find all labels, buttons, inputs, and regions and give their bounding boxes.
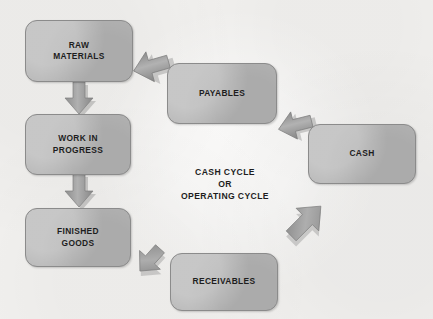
- node-raw-materials-label: RAW MATERIALS: [53, 40, 104, 63]
- node-payables-label: PAYABLES: [199, 88, 245, 99]
- node-work-in-progress[interactable]: WORK IN PROGRESS: [25, 114, 131, 175]
- node-work-in-progress-label: WORK IN PROGRESS: [53, 133, 103, 156]
- node-cash-label: CASH: [349, 148, 374, 159]
- arrow-raw-materials-to-work-in-progress: [62, 80, 104, 118]
- node-receivables[interactable]: RECEIVABLES: [170, 253, 278, 311]
- cycle-caption: CASH CYCLE OR OPERATING CYCLE: [162, 166, 288, 203]
- node-raw-materials[interactable]: RAW MATERIALS: [25, 20, 133, 82]
- arrow-work-in-progress-to-finished-goods: [62, 172, 104, 212]
- node-finished-goods[interactable]: FINISHED GOODS: [25, 208, 131, 267]
- node-payables[interactable]: PAYABLES: [167, 63, 277, 124]
- cash-cycle-diagram: RAW MATERIALS WORK IN PROGRESS FINISHED …: [0, 0, 433, 319]
- node-receivables-label: RECEIVABLES: [193, 276, 256, 287]
- arrow-receivables-to-cash: [281, 196, 337, 252]
- node-finished-goods-label: FINISHED GOODS: [57, 226, 99, 249]
- node-cash[interactable]: CASH: [308, 124, 416, 184]
